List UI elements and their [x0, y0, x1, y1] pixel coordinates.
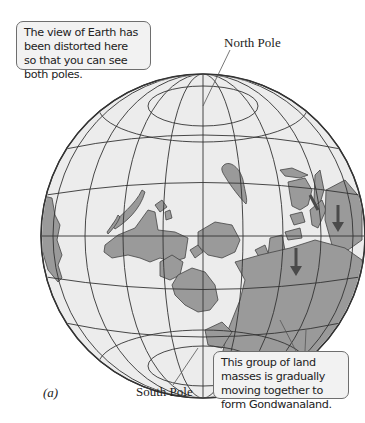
- gondwanaland-callout: This group of land masses is gradually m…: [213, 351, 349, 399]
- panel-label: (a): [43, 385, 58, 401]
- south-pole-label: South Pole: [136, 384, 193, 400]
- north-pole-label: North Pole: [224, 35, 281, 51]
- distortion-callout: The view of Earth has been distorted her…: [16, 21, 151, 70]
